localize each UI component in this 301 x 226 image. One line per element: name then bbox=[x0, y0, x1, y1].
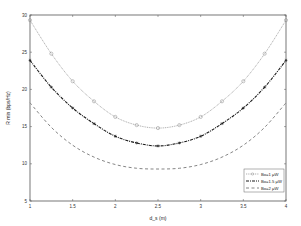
star-marker bbox=[71, 107, 74, 110]
y-tick-label: 5 bbox=[24, 199, 27, 204]
star-marker bbox=[178, 141, 181, 144]
line-chart: 51015202530 11.522.533.54 d_s (m) R min … bbox=[0, 0, 301, 226]
y-tick-label: 20 bbox=[22, 87, 28, 92]
star-marker bbox=[242, 107, 245, 110]
y-tick-label: 10 bbox=[22, 161, 28, 166]
star-marker bbox=[114, 135, 117, 138]
x-tick-label: 1.5 bbox=[70, 204, 77, 209]
star-marker bbox=[157, 144, 160, 147]
star-marker bbox=[135, 141, 138, 144]
x-tick-label: 1 bbox=[29, 204, 32, 209]
legend-label: Bo=1.5 μW bbox=[261, 179, 282, 184]
star-marker bbox=[263, 86, 266, 89]
x-tick-label: 4 bbox=[285, 204, 288, 209]
star-marker bbox=[285, 59, 288, 62]
x-tick-label: 2 bbox=[114, 204, 117, 209]
legend-label: Bo=1 μW bbox=[261, 172, 278, 177]
y-tick-label: 15 bbox=[22, 124, 28, 129]
star-marker bbox=[221, 122, 224, 125]
x-tick-label: 2.5 bbox=[155, 204, 162, 209]
legend: Bo=1 μWBo=1.5 μWBo=2 μW bbox=[244, 169, 284, 192]
legend-label: Bo=2 μW bbox=[261, 186, 278, 191]
star-marker bbox=[199, 135, 202, 138]
star-marker bbox=[93, 122, 96, 125]
star-marker bbox=[29, 59, 32, 62]
star-marker bbox=[50, 86, 53, 89]
y-tick-label: 30 bbox=[22, 13, 28, 18]
y-axis-label: R min (bps/Hz) bbox=[5, 91, 11, 125]
x-tick-label: 3.5 bbox=[240, 204, 247, 209]
y-tick-label: 25 bbox=[22, 50, 28, 55]
x-axis-label: d_s (m) bbox=[150, 215, 167, 221]
x-tick-label: 3 bbox=[199, 204, 202, 209]
